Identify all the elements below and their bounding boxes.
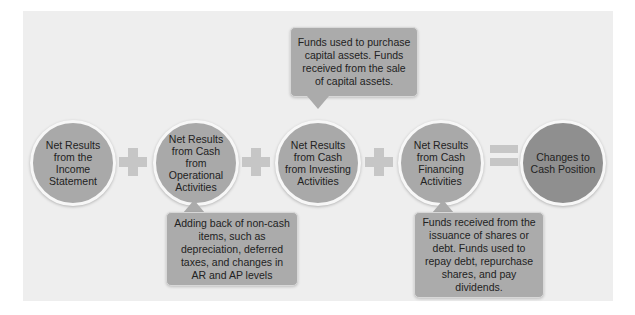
- plus-operator-3: [365, 148, 393, 176]
- callout-financing: Funds received from the issuance of shar…: [414, 212, 544, 298]
- callout-investing-pointer: [307, 96, 329, 109]
- node-result-label: Changes to Cash Position: [523, 151, 603, 175]
- node-cash-position-change: Changes to Cash Position: [520, 120, 606, 206]
- node-financing-label: Net Results from Cash Financing Activiti…: [401, 139, 481, 187]
- callout-investing-text: Funds used to purchase capital assets. F…: [297, 36, 411, 88]
- node-operational-activities: Net Results from Cash from Operational A…: [153, 120, 239, 206]
- node-operating-label: Net Results from Cash from Operational A…: [156, 133, 236, 193]
- callout-investing: Funds used to purchase capital assets. F…: [290, 27, 418, 97]
- callout-financing-text: Funds received from the issuance of shar…: [421, 216, 537, 294]
- callout-operating-text: Adding back of non-cash items, such as d…: [173, 217, 291, 282]
- node-financing-activities: Net Results from Cash Financing Activiti…: [398, 120, 484, 206]
- callout-operating: Adding back of non-cash items, such as d…: [166, 212, 298, 286]
- plus-operator-1: [119, 148, 147, 176]
- plus-operator-2: [242, 148, 270, 176]
- node-income-label: Net Results from the Income Statement: [33, 139, 113, 187]
- node-income-statement: Net Results from the Income Statement: [30, 120, 116, 206]
- node-investing-activities: Net Results from Cash from Investing Act…: [275, 120, 361, 206]
- node-investing-label: Net Results from Cash from Investing Act…: [278, 139, 358, 187]
- equals-operator: [490, 145, 518, 167]
